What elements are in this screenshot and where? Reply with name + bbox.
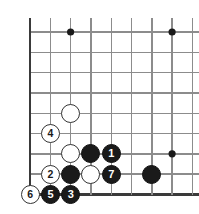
board-star-points (0, 0, 199, 214)
go-board-diagram: 4127653 (0, 0, 199, 214)
star-point-upper-left (67, 28, 74, 35)
star-point-right (169, 150, 176, 157)
star-point-upper-right (169, 28, 176, 35)
